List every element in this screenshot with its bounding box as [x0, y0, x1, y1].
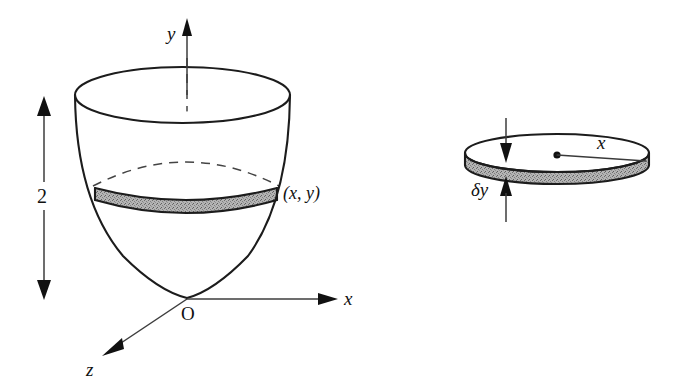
- disc-radius-label: x: [596, 132, 606, 153]
- height-dimension-arrow-down: [37, 280, 51, 300]
- elemental-disc-group: x δy: [460, 118, 655, 222]
- disc-radius-line: [557, 155, 646, 161]
- height-dimension-label: 2: [37, 185, 47, 207]
- figure-canvas: y x z O (x, y) 2: [0, 0, 684, 392]
- y-axis-arrowhead: [182, 18, 192, 36]
- paraboloid-group: y x z O (x, y) 2: [33, 18, 353, 380]
- height-dimension-arrow-up: [37, 96, 51, 116]
- y-axis-label: y: [165, 23, 176, 44]
- x-axis-label: x: [343, 288, 353, 309]
- thickness-arrow-down: [500, 143, 512, 163]
- origin-label: O: [181, 303, 195, 324]
- thickness-label: δy: [471, 179, 489, 200]
- height-dimension: 2: [33, 96, 55, 300]
- diagram-svg: y x z O (x, y) 2: [0, 0, 684, 392]
- point-xy-label: (x, y): [283, 183, 320, 204]
- z-axis-arrowhead: [102, 338, 124, 356]
- z-axis-line: [115, 299, 187, 347]
- x-axis-arrowhead: [318, 293, 338, 305]
- z-axis-label: z: [85, 359, 94, 380]
